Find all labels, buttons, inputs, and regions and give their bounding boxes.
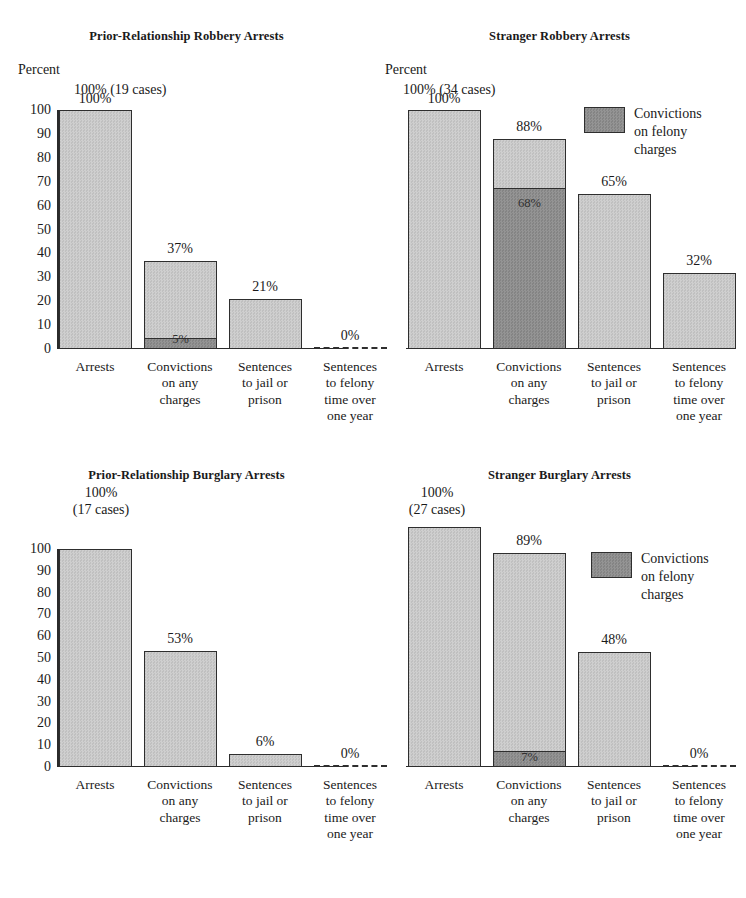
y-tick-label: 100 <box>30 542 51 556</box>
category-label: Convictions on any charges <box>147 359 212 408</box>
bar-sentences-jail[interactable] <box>229 754 302 767</box>
y-tick-label: 0 <box>44 342 51 356</box>
figure-grid: Prior-Relationship Robbery Arrests Perce… <box>0 0 746 898</box>
bar-value-label: 100% <box>79 91 112 107</box>
bar-arrests[interactable] <box>408 527 481 767</box>
plot-area: 100 90 80 70 60 50 40 30 20 10 0 <box>57 110 345 349</box>
plot-area: 100 90 80 70 60 50 40 30 20 10 0 100% <box>57 549 345 767</box>
bar-value-label: 53% <box>167 631 193 647</box>
bar-arrests[interactable] <box>408 110 481 349</box>
bar-convictions-any[interactable] <box>144 651 217 767</box>
bar-zero-dash <box>663 765 736 767</box>
y-tick-label: 10 <box>37 738 51 752</box>
y-tick-label: 70 <box>37 175 51 189</box>
panel-stranger-robbery: Stranger Robbery Arrests Percent 100% (3… <box>373 0 746 449</box>
category-label: Convictions on any charges <box>496 777 561 826</box>
panel-title: Stranger Burglary Arrests <box>373 468 746 483</box>
bar-value-label: 89% <box>516 533 542 549</box>
bar-value-label: 88% <box>516 119 542 135</box>
y-tick-label: 40 <box>37 246 51 260</box>
bar-value-label: 0% <box>690 746 709 762</box>
bar-value-label: 100% <box>428 91 461 107</box>
bar-sentences-jail[interactable] <box>578 652 651 767</box>
bar-felony-segment[interactable]: 68% <box>493 188 567 349</box>
y-tick-label: 100 <box>30 103 51 117</box>
bar-felony-value: 7% <box>494 750 566 765</box>
bar-value-label: 37% <box>167 241 193 257</box>
y-tick-label: 50 <box>37 223 51 237</box>
bar-felony-value: 5% <box>145 332 217 347</box>
bar-value-label: 6% <box>256 734 275 750</box>
category-label: Sentences to felony time over one year <box>323 359 377 425</box>
category-label: Sentences to felony time over one year <box>323 777 377 843</box>
category-label: Sentences to jail or prison <box>587 777 641 826</box>
chart-subtitle: 100% (17 cases) <box>55 485 147 519</box>
category-label: Arrests <box>425 359 464 375</box>
plot-area: 7% 100% 89% 48% 0% Arrests Convictions o… <box>406 527 694 767</box>
chart-subtitle: 100% (27 cases) <box>373 485 501 519</box>
bar-sentences-jail[interactable] <box>229 299 302 349</box>
category-label: Arrests <box>425 777 464 793</box>
bar-value-label: 48% <box>601 632 627 648</box>
y-tick-label: 30 <box>37 270 51 284</box>
panel-title: Prior-Relationship Burglary Arrests <box>0 468 373 483</box>
y-axis-title: Percent <box>18 62 60 78</box>
panel-title: Prior-Relationship Robbery Arrests <box>0 29 373 44</box>
bar-arrests[interactable] <box>59 110 132 349</box>
y-tick-label: 70 <box>37 607 51 621</box>
y-tick-label: 50 <box>37 651 51 665</box>
category-label: Arrests <box>76 359 115 375</box>
y-tick-label: 80 <box>37 151 51 165</box>
y-tick-label: 40 <box>37 673 51 687</box>
bar-felony-segment[interactable]: 5% <box>144 338 218 350</box>
bar-value-label: 21% <box>252 279 278 295</box>
y-tick-label: 60 <box>37 629 51 643</box>
category-label: Sentences to jail or prison <box>587 359 641 408</box>
bar-felony-segment[interactable]: 7% <box>493 751 567 768</box>
panel-prior-relationship-robbery: Prior-Relationship Robbery Arrests Perce… <box>0 0 373 449</box>
y-axis-title: Percent <box>385 62 427 78</box>
category-label: Convictions on any charges <box>496 359 561 408</box>
bar-felony-value: 68% <box>494 196 566 211</box>
bar-convictions-any[interactable]: 7% <box>493 553 566 767</box>
bar-arrests[interactable] <box>59 549 132 767</box>
category-label: Sentences to jail or prison <box>238 359 292 408</box>
bar-value-label: 0% <box>341 328 360 344</box>
category-label: Sentences to jail or prison <box>238 777 292 826</box>
bar-value-label: 65% <box>601 174 627 190</box>
y-tick-label: 60 <box>37 199 51 213</box>
y-tick-label: 20 <box>37 294 51 308</box>
category-label: Arrests <box>76 777 115 793</box>
y-tick-label: 30 <box>37 695 51 709</box>
bar-value-label: 32% <box>686 253 712 269</box>
bar-value-label: 0% <box>341 746 360 762</box>
y-tick-label: 0 <box>44 760 51 774</box>
bar-sentences-felony[interactable] <box>663 273 736 349</box>
y-tick-label: 90 <box>37 564 51 578</box>
category-label: Sentences to felony time over one year <box>672 359 726 425</box>
y-tick-label: 20 <box>37 716 51 730</box>
category-label: Sentences to felony time over one year <box>672 777 726 843</box>
plot-area: 68% 100% 88% 65% 32% Arrests Convictions… <box>406 110 694 349</box>
panel-prior-relationship-burglary: Prior-Relationship Burglary Arrests 100%… <box>0 449 373 898</box>
y-tick-label: 10 <box>37 318 51 332</box>
bar-sentences-jail[interactable] <box>578 194 651 349</box>
y-tick-label: 80 <box>37 586 51 600</box>
category-label: Convictions on any charges <box>147 777 212 826</box>
bar-convictions-any[interactable]: 5% <box>144 261 217 349</box>
panel-stranger-burglary: Stranger Burglary Arrests 100% (27 cases… <box>373 449 746 898</box>
bar-convictions-any[interactable]: 68% <box>493 139 566 349</box>
y-tick-label: 90 <box>37 127 51 141</box>
panel-title: Stranger Robbery Arrests <box>373 29 746 44</box>
